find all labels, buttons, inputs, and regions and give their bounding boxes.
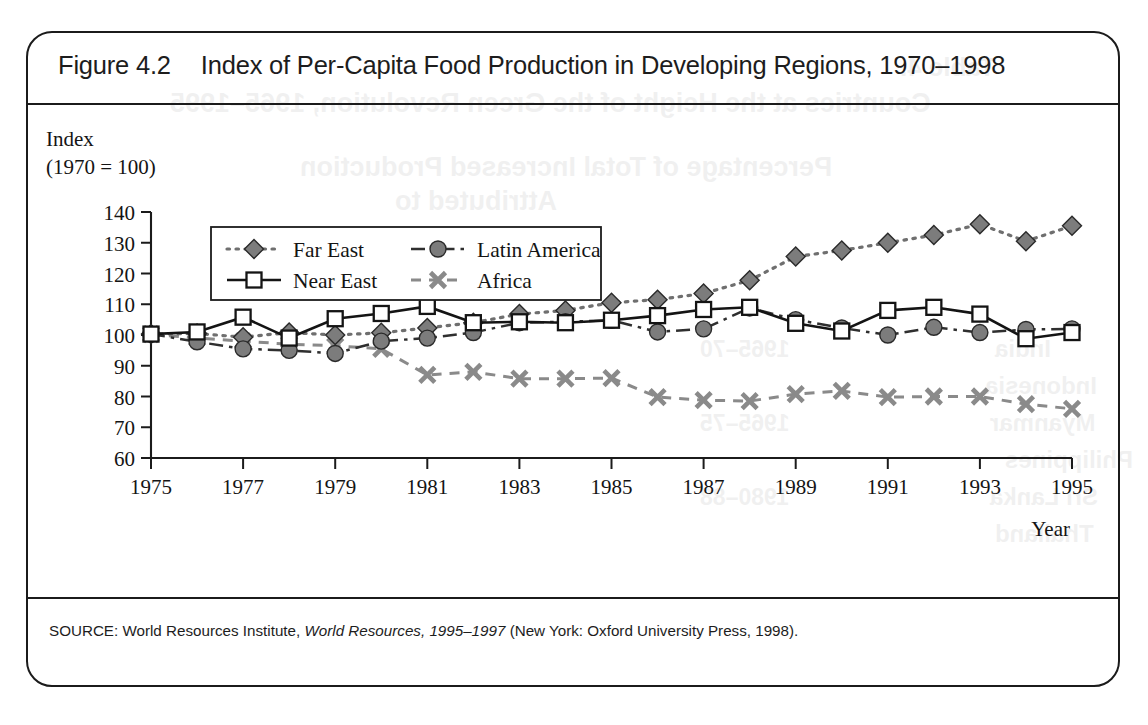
x-tick-label: 1975 (130, 475, 172, 499)
x-tick-label: 1985 (591, 475, 633, 499)
data-point (235, 341, 251, 357)
data-point (512, 314, 527, 329)
data-point (786, 247, 805, 266)
figure-title: Figure 4.2Index of Per-Capita Food Produ… (58, 51, 1005, 80)
y-tick-label: 110 (104, 293, 135, 317)
source-note: SOURCE: World Resources Institute, World… (49, 622, 798, 639)
data-point (558, 315, 573, 330)
data-point (420, 299, 435, 314)
data-point (466, 315, 481, 330)
data-point (282, 331, 297, 346)
data-point (740, 271, 759, 290)
y-axis-caption-line2: (1970 = 100) (46, 155, 156, 179)
data-point (926, 319, 942, 335)
legend-label: Far East (293, 238, 364, 262)
x-tick-label: 1995 (1051, 475, 1093, 499)
y-tick-label: 90 (114, 355, 135, 379)
source-prefix: SOURCE: World Resources Institute, (49, 622, 304, 639)
x-tick-label: 1987 (683, 475, 725, 499)
data-point (970, 215, 989, 234)
data-point (1065, 401, 1080, 416)
data-point (374, 306, 389, 321)
x-tick-label: 1977 (222, 475, 264, 499)
legend-marker (247, 273, 262, 288)
data-point (696, 302, 711, 317)
data-point (1016, 232, 1035, 251)
data-point (144, 327, 159, 342)
data-point (1065, 325, 1080, 340)
legend-label: Africa (477, 269, 532, 293)
data-point (926, 300, 941, 315)
chart-canvas: Index(1970 = 100)60708090100110120130140… (26, 104, 1120, 597)
data-point (373, 333, 389, 349)
data-point (880, 327, 896, 343)
x-tick-label: 1991 (867, 475, 909, 499)
legend-marker (430, 241, 446, 257)
data-point (236, 310, 251, 325)
data-point (328, 311, 343, 326)
data-point (832, 241, 851, 260)
legend-label: Near East (293, 269, 377, 293)
figure-number: Figure 4.2 (58, 51, 171, 79)
y-tick-label: 60 (114, 447, 135, 471)
data-point (972, 325, 988, 341)
data-point (880, 303, 895, 318)
y-tick-label: 100 (104, 324, 136, 348)
data-point (972, 307, 987, 322)
legend-label: Latin America (477, 238, 601, 262)
data-point (419, 330, 435, 346)
figure-title-text: Index of Per-Capita Food Production in D… (201, 51, 1005, 79)
y-tick-label: 80 (114, 386, 135, 410)
data-point (1018, 331, 1033, 346)
data-point (1063, 216, 1082, 235)
data-point (696, 321, 712, 337)
source-divider (26, 597, 1120, 599)
data-point (834, 324, 849, 339)
data-point (788, 316, 803, 331)
data-point (694, 284, 713, 303)
data-point (924, 226, 943, 245)
data-point (742, 300, 757, 315)
data-point (650, 324, 666, 340)
source-suffix: (New York: Oxford University Press, 1998… (505, 622, 798, 639)
data-point (650, 308, 665, 323)
x-tick-label: 1979 (314, 475, 356, 499)
y-tick-label: 130 (104, 232, 136, 256)
y-axis-caption-line1: Index (46, 127, 94, 151)
chart-legend: Far EastLatin AmericaNear EastAfrica (211, 227, 601, 300)
data-point (602, 293, 621, 312)
y-tick-label: 140 (104, 201, 136, 225)
data-point (604, 313, 619, 328)
source-italic: World Resources, 1995–1997 (304, 622, 505, 639)
data-point (327, 345, 343, 361)
x-tick-label: 1981 (406, 475, 448, 499)
data-point (878, 233, 897, 252)
y-tick-label: 120 (104, 263, 136, 287)
data-point (648, 290, 667, 309)
x-tick-label: 1993 (959, 475, 1001, 499)
data-point (190, 324, 205, 339)
line-chart: Index(1970 = 100)60708090100110120130140… (26, 104, 1120, 597)
x-axis-caption: Year (1031, 517, 1070, 541)
data-point (604, 371, 619, 386)
x-tick-label: 1983 (498, 475, 540, 499)
y-tick-label: 70 (114, 416, 135, 440)
x-tick-label: 1989 (775, 475, 817, 499)
